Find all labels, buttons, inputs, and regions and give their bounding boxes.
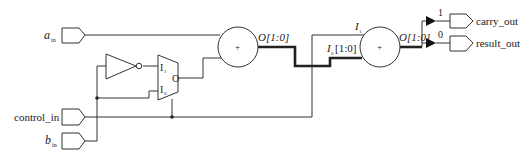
b-in-label-main: b xyxy=(45,133,51,147)
control-in-label: control_in xyxy=(14,111,60,123)
output-port-result-out: result_out xyxy=(450,36,520,51)
split-arrow-1 xyxy=(426,16,436,26)
adder-2-symbol: + xyxy=(377,42,382,52)
input-port-b-in: b in xyxy=(45,133,85,149)
circuit-diagram: a in control_in b in xyxy=(0,0,529,160)
split-bit0-label: 0 xyxy=(438,29,443,40)
input-port-a-in: a in xyxy=(44,28,85,43)
inverter xyxy=(106,54,142,79)
adder-2-in0-sub: 0 xyxy=(331,51,334,56)
a-in-label-main: a xyxy=(44,28,50,42)
mux: I 1 I 0 O xyxy=(158,55,179,100)
adder-2: + I 1 I 0 [1:0] O[1:0] xyxy=(326,20,430,67)
split-bit1-label: 1 xyxy=(438,7,443,18)
output-port-carry-out: carry_out xyxy=(450,14,518,28)
a-in-label-sub: in xyxy=(51,37,56,43)
carry-out-label: carry_out xyxy=(476,15,518,27)
split-arrow-0 xyxy=(426,38,436,48)
mux-in1-main: I xyxy=(160,62,163,73)
adder-1-symbol: + xyxy=(235,42,240,52)
adder-2-in0-suffix: [1:0] xyxy=(335,42,356,54)
inverter-bubble xyxy=(136,63,142,69)
input-port-control-in: control_in xyxy=(14,109,85,125)
adder-2-in1-sub: 1 xyxy=(359,29,362,34)
mux-out-label: O xyxy=(172,73,179,84)
junction-dot xyxy=(95,96,99,100)
result-out-label: result_out xyxy=(476,37,520,49)
adder-2-out-label: O[1:0] xyxy=(399,31,430,43)
bus-splitter: 1 0 xyxy=(422,7,450,48)
b-in-label-sub: in xyxy=(52,142,57,148)
mux-in0-main: I xyxy=(160,84,163,95)
junction-dot xyxy=(170,115,174,119)
adder-1-out-label: O[1:0] xyxy=(258,31,289,43)
